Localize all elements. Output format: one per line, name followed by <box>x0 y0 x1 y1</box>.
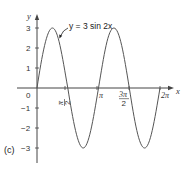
y-tick-minus-2: −2 <box>21 124 31 133</box>
panel-label: (c) <box>4 145 15 155</box>
y-tick-minus-3: −3 <box>21 144 31 153</box>
y-axis-label: y <box>26 11 31 21</box>
x-axis-label: x <box>175 86 180 96</box>
equation-label: y = 3 sin 2x <box>69 21 113 31</box>
x-tick-labels: π 2 π 3π 2 2π <box>56 90 170 108</box>
y-tick-3: 3 <box>26 24 31 33</box>
sine-chart: y x 3 2 1 0 −1 −2 −3 π 2 π 3π 2 2π y = 3… <box>0 0 185 169</box>
y-axis-arrow-icon <box>35 14 39 20</box>
y-tick-0: 0 <box>26 91 31 100</box>
svg-text:2: 2 <box>122 99 127 108</box>
y-tick-1: 1 <box>26 64 31 73</box>
x-axis-arrow-icon <box>168 86 174 90</box>
y-tick-2: 2 <box>26 44 31 53</box>
x-axis <box>17 86 174 90</box>
equation-annotation: y = 3 sin 2x <box>59 21 113 39</box>
x-tick-pi: π <box>99 91 104 100</box>
x-tick-3pi-over-2: 3π 2 <box>118 90 129 108</box>
x-tick-2pi: 2π <box>161 91 170 100</box>
y-tick-minus-1: −1 <box>21 104 31 113</box>
svg-text:3π: 3π <box>118 90 128 99</box>
